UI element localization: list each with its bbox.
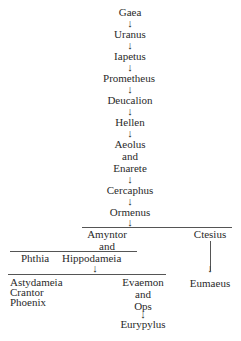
node-eurypylus: Eurypylus [120,319,165,330]
node-ctesius: Ctesius [194,229,226,240]
conjunction-and: and [122,151,138,162]
node-eumaeus: Eumaeus [190,278,230,289]
conjunction-and: and [135,289,151,300]
arrow-down-icon: ↓ [207,263,213,274]
children-line [8,274,166,275]
node-amyntor: Amyntor [87,229,127,240]
node-evaemon: Evaemon [122,277,164,288]
arrow-down-icon: ↓ [92,263,98,274]
node-phthia: Phthia [21,253,49,264]
node-phoenix: Phoenix [10,297,46,308]
node-aeolus: Aeolus [114,139,145,150]
